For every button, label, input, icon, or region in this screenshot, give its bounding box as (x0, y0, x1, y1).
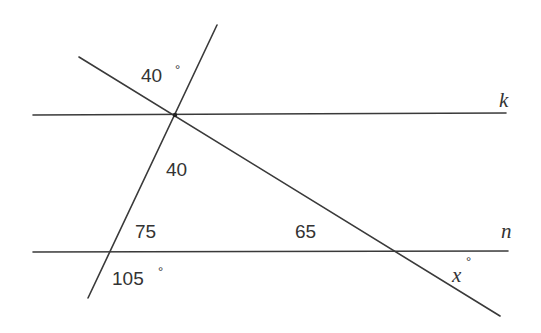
angle-bottom-left-degree: ° (158, 264, 163, 279)
geometry-diagram: k n 40 ° 40 75 65 105 ° x ° (0, 0, 541, 333)
angle-top-degree: ° (175, 62, 180, 77)
angle-triangle-left: 75 (135, 221, 156, 242)
label-n: n (501, 219, 512, 243)
angle-triangle-right: 65 (295, 221, 316, 242)
angle-unknown-x: x (451, 263, 462, 287)
line-k (33, 113, 506, 115)
angle-triangle-top: 40 (166, 159, 187, 180)
label-k: k (499, 88, 509, 112)
angle-unknown-degree: ° (466, 254, 471, 269)
line-n (33, 251, 508, 252)
angle-bottom-left-value: 105 (112, 268, 144, 289)
intersection-point (173, 113, 177, 117)
angle-top-value: 40 (141, 65, 162, 86)
